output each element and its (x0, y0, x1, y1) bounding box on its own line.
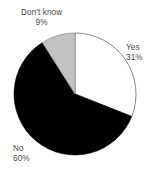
pie-label-yes-value: 31% (126, 53, 143, 63)
pie-label-yes: Yes 31% (126, 43, 143, 62)
pie-label-dont-know-value: 9% (21, 18, 62, 28)
pie-label-no-name: No (13, 144, 30, 154)
pie-label-no-value: 60% (13, 154, 30, 164)
pie-label-dont-know: Don't know 9% (21, 8, 62, 27)
pie-label-yes-name: Yes (126, 43, 143, 53)
pie-label-no: No 60% (13, 144, 30, 163)
pie-label-dont-know-name: Don't know (21, 8, 62, 18)
pie-chart: Don't know 9% Yes 31% No 60% (0, 0, 149, 173)
